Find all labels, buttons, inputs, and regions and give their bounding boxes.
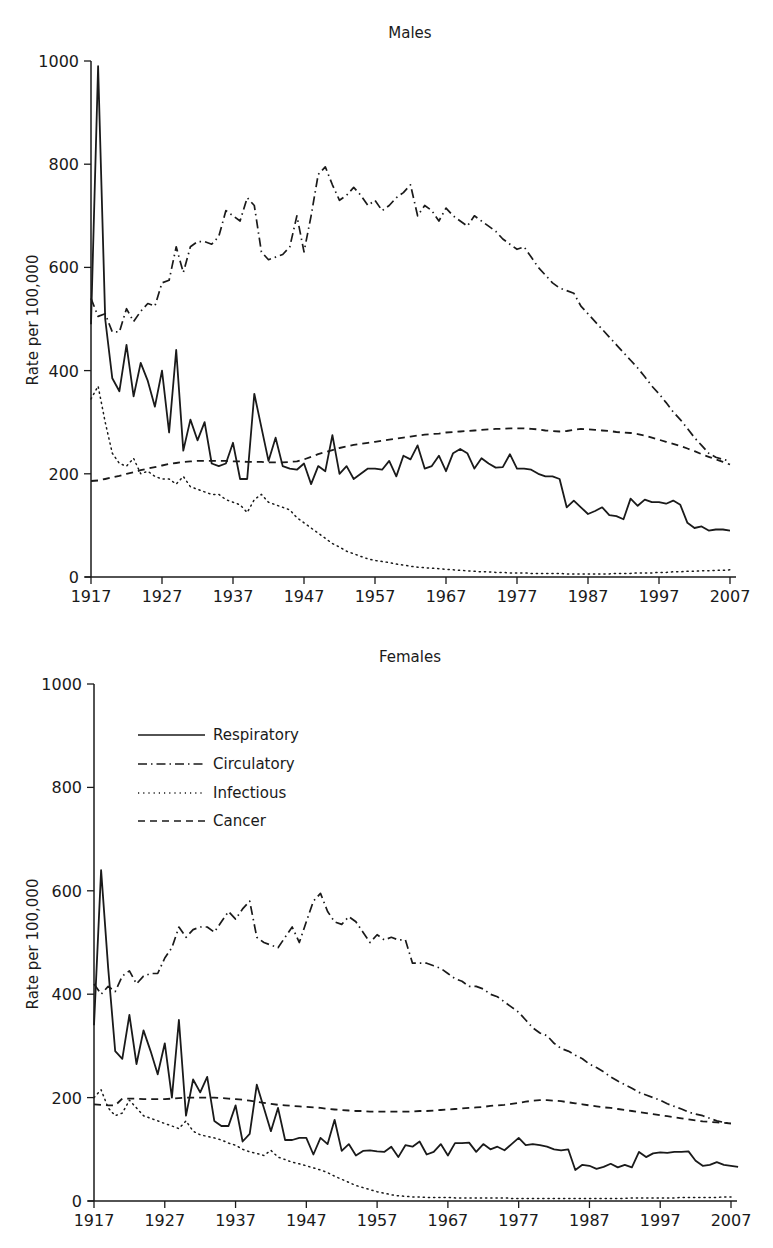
legend-label: Cancer xyxy=(213,812,267,830)
legend-item-infectious: Infectious xyxy=(138,784,286,802)
series-circulatory-line xyxy=(91,167,730,461)
x-tick-label: 1967 xyxy=(426,587,467,606)
y-tick-label: 200 xyxy=(48,465,79,484)
x-tick-label: 1947 xyxy=(286,1211,327,1230)
legend-label: Infectious xyxy=(213,784,286,802)
x-tick-label: 1947 xyxy=(284,587,325,606)
y-axis-label-females: Rate per 100,000 xyxy=(24,879,42,1010)
x-tick-label: 1997 xyxy=(640,1211,681,1230)
chart-title-females: Females xyxy=(379,648,441,666)
x-tick-label: 1957 xyxy=(355,587,396,606)
y-tick-label: 600 xyxy=(51,882,82,901)
x-tick-label: 1917 xyxy=(71,587,112,606)
y-tick-label: 0 xyxy=(69,568,79,587)
ticks-females: 0200400600800100019171927193719471957196… xyxy=(41,675,751,1230)
series-infectious-line xyxy=(94,1090,731,1199)
y-tick-label: 800 xyxy=(51,778,82,797)
x-tick-label: 2007 xyxy=(711,1211,752,1230)
legend-label: Respiratory xyxy=(213,726,299,744)
axes-females xyxy=(88,684,737,1201)
x-tick-label: 1927 xyxy=(144,1211,185,1230)
axes-males xyxy=(85,61,736,577)
x-tick-label: 1997 xyxy=(639,587,680,606)
series-females xyxy=(94,870,738,1198)
series-circulatory-line xyxy=(94,893,731,1123)
chart-title-males: Males xyxy=(388,24,432,42)
legend-item-cancer: Cancer xyxy=(138,812,267,830)
y-tick-label: 200 xyxy=(51,1089,82,1108)
females-chart: Females Rate per 100,000 020040060080010… xyxy=(24,648,751,1230)
legend-label: Circulatory xyxy=(213,755,295,773)
series-respiratory-line xyxy=(94,870,738,1170)
figure: Males Rate per 100,000 02004006008001000… xyxy=(0,0,773,1248)
x-tick-label: 1937 xyxy=(213,587,254,606)
y-tick-label: 800 xyxy=(48,155,79,174)
x-tick-label: 1927 xyxy=(142,587,183,606)
y-tick-label: 400 xyxy=(51,985,82,1004)
x-tick-label: 1977 xyxy=(498,1211,539,1230)
x-tick-label: 1917 xyxy=(74,1211,115,1230)
y-tick-label: 1000 xyxy=(38,52,79,71)
legend: Respiratory Circulatory Infectious Cance… xyxy=(138,726,299,830)
x-tick-label: 1987 xyxy=(568,587,609,606)
x-tick-label: 1937 xyxy=(215,1211,256,1230)
y-tick-label: 400 xyxy=(48,362,79,381)
series-infectious-line xyxy=(91,386,730,574)
x-tick-label: 2007 xyxy=(710,587,751,606)
x-tick-label: 1957 xyxy=(357,1211,398,1230)
y-tick-label: 600 xyxy=(48,258,79,277)
ticks-males: 0200400600800100019171927193719471957196… xyxy=(38,52,750,606)
x-tick-label: 1967 xyxy=(428,1211,469,1230)
y-tick-label: 1000 xyxy=(41,675,82,694)
x-tick-label: 1977 xyxy=(497,587,538,606)
males-chart: Males Rate per 100,000 02004006008001000… xyxy=(24,24,750,606)
series-males xyxy=(91,66,730,574)
x-tick-label: 1987 xyxy=(569,1211,610,1230)
y-axis-label-males: Rate per 100,000 xyxy=(24,255,42,386)
legend-item-circulatory: Circulatory xyxy=(138,755,295,773)
legend-item-respiratory: Respiratory xyxy=(138,726,299,744)
y-tick-label: 0 xyxy=(72,1192,82,1211)
